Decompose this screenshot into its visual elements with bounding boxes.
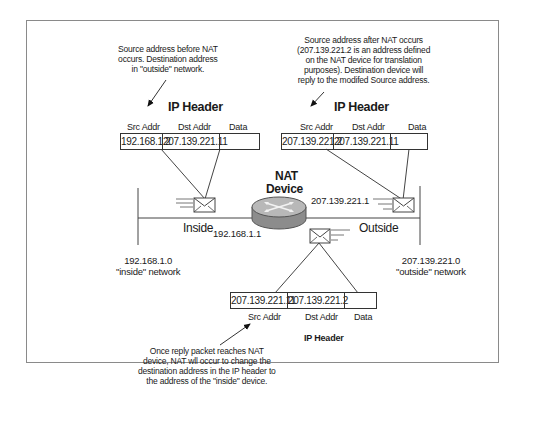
col-src-addr: Src Addr bbox=[248, 312, 281, 322]
col-data: Data bbox=[354, 312, 372, 322]
packet-envelope-outside-icon bbox=[373, 198, 414, 212]
col-dst-addr: Dst Addr bbox=[178, 122, 211, 132]
col-data: Data bbox=[229, 122, 247, 132]
note-line: purposes). Destination device will bbox=[297, 65, 430, 75]
note-line: occurs. Destination address bbox=[118, 54, 218, 64]
nat-outside-ip: 207.139.221.1 bbox=[311, 195, 369, 206]
nat-label-line: Device bbox=[266, 183, 303, 196]
diagram-lines bbox=[0, 0, 559, 426]
nat-router-icon bbox=[252, 197, 306, 229]
note-line: in "outside" network. bbox=[118, 64, 218, 74]
col-data: Data bbox=[408, 122, 426, 132]
note-reply: Once reply packet reaches NAT device, NA… bbox=[138, 346, 276, 386]
ip-header-left-dst: 207.139.221.11 bbox=[162, 133, 220, 150]
col-dst-addr: Dst Addr bbox=[352, 122, 385, 132]
network-address: 207.139.221.0 bbox=[396, 255, 466, 266]
note-line: (207.139.221.2 is an address defined bbox=[297, 45, 430, 55]
note-line: Once reply packet reaches NAT bbox=[138, 346, 276, 356]
ip-header-left-src: 192.168.1.2 bbox=[120, 133, 163, 150]
packet-envelope-inside-icon bbox=[176, 198, 215, 212]
ip-header-right-dst: 207.139.221.11 bbox=[333, 133, 391, 150]
note-line: the address of the "inside" device. bbox=[138, 376, 276, 386]
ip-header-bottom-src: 207.139.221.11 bbox=[230, 292, 288, 309]
nat-device-label: NAT Device bbox=[270, 170, 303, 196]
ip-header-right-data bbox=[390, 133, 428, 150]
col-dst-addr: Dst Addr bbox=[305, 312, 338, 322]
note-arrow-bottom bbox=[220, 324, 250, 345]
note-line: Source address before NAT bbox=[118, 44, 218, 54]
note-arrow-right bbox=[311, 92, 324, 106]
ip-header-bottom-title: IP Header bbox=[304, 333, 344, 343]
inside-network-label: 192.168.1.0 "inside" network bbox=[116, 255, 180, 277]
note-line: Source address after NAT occurs bbox=[297, 35, 430, 45]
col-src-addr: Src Addr bbox=[300, 122, 333, 132]
inside-segment-label: Inside bbox=[183, 221, 213, 235]
note-line: on the NAT device for translation bbox=[297, 55, 430, 65]
note-after-nat: Source address after NAT occurs (207.139… bbox=[297, 35, 430, 85]
network-name: "inside" network bbox=[116, 266, 180, 277]
ip-header-bottom-dst: 207.139.221.2 bbox=[287, 292, 345, 309]
col-src-addr: Src Addr bbox=[127, 122, 160, 132]
ip-header-left-title: IP Header bbox=[168, 100, 223, 114]
note-line: device, NAT wll occur to change the bbox=[138, 356, 276, 366]
network-name: "outside" network bbox=[396, 266, 466, 277]
ip-header-right-src: 207.139.221.2 bbox=[281, 133, 334, 150]
note-before-nat: Source address before NAT occurs. Destin… bbox=[118, 44, 218, 74]
note-arrow-left bbox=[148, 80, 166, 106]
ip-header-right-title: IP Header bbox=[334, 100, 389, 114]
packet-envelope-reply-icon bbox=[310, 229, 350, 243]
note-line: destination address in the IP header to bbox=[138, 366, 276, 376]
ip-header-bottom-data bbox=[344, 292, 377, 309]
outside-network-label: 207.139.221.0 "outside" network bbox=[396, 255, 466, 277]
network-address: 192.168.1.0 bbox=[116, 255, 180, 266]
ip-header-left-data bbox=[219, 133, 260, 150]
note-line: reply to the modifed Source address. bbox=[297, 75, 430, 85]
outside-segment-label: Outside bbox=[359, 221, 398, 235]
nat-inside-ip: 192.168.1.1 bbox=[213, 228, 261, 239]
